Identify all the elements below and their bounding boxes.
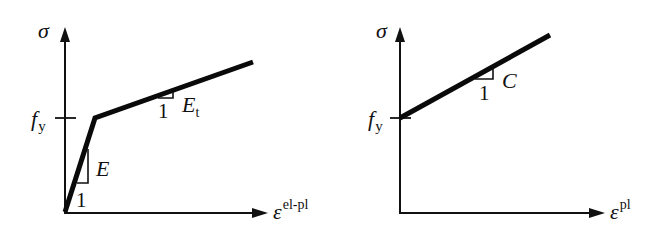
- hardening-run-label: 1: [479, 81, 490, 105]
- left-bilinear-curve: [65, 62, 253, 212]
- left-x-axis-arrow-icon: [252, 208, 268, 218]
- left-panel-bilinear-diagram: σ fy E 1 1 Et εel-pl: [31, 18, 308, 224]
- left-yield-label: fy: [31, 106, 46, 134]
- left-x-axis-label: εel-pl: [273, 197, 308, 224]
- tangent-modulus-label: Et: [181, 92, 199, 120]
- right-x-axis-arrow-icon: [589, 208, 605, 218]
- left-y-axis-label: σ: [38, 18, 50, 43]
- right-yield-label: fy: [368, 106, 383, 134]
- right-hardening-line: [400, 35, 550, 118]
- tangent-run-label: 1: [158, 99, 169, 123]
- right-y-axis-label: σ: [376, 18, 388, 43]
- elastic-modulus-label: E: [95, 156, 110, 181]
- right-x-axis-label: εpl: [610, 197, 631, 224]
- hardening-modulus-label: C: [502, 68, 517, 93]
- right-y-axis-arrow-icon: [395, 27, 405, 42]
- right-panel-hardening-diagram: σ fy 1 C εpl: [368, 18, 631, 224]
- left-y-axis-arrow-icon: [60, 27, 70, 42]
- stress-strain-figure: σ fy E 1 1 Et εel-pl σ fy 1: [0, 0, 658, 236]
- elastic-run-label: 1: [76, 188, 87, 212]
